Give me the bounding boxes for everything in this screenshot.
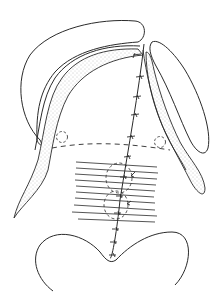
left-dashed-circle <box>57 132 68 143</box>
dashed-transverse-line <box>52 144 170 150</box>
midline-suture-line <box>110 44 144 258</box>
right-dashed-circle <box>155 137 166 148</box>
bottom-uvula-arc <box>36 232 189 291</box>
palate-surgery-diagram <box>0 0 218 306</box>
diagram-svg <box>0 0 218 306</box>
